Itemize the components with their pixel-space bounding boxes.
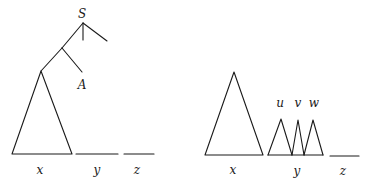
x-subtree-triangle — [205, 72, 263, 155]
label-x: x — [230, 163, 237, 177]
label-z: z — [133, 163, 141, 177]
u-subtree-triangle — [268, 119, 292, 155]
label-y: y — [293, 164, 301, 178]
branch-to-x-subtree — [41, 48, 62, 71]
label-y: y — [93, 163, 101, 177]
label-v: v — [295, 96, 302, 110]
x-subtree-triangle — [12, 71, 72, 154]
label-u: u — [276, 96, 284, 110]
v-subtree-triangle — [292, 120, 304, 155]
label-w: w — [309, 96, 320, 110]
label-x: x — [37, 163, 44, 177]
parse-tree-diagram: S A x y z u v w x y z — [0, 0, 367, 191]
node-label-a: A — [77, 78, 87, 92]
root-left-branch — [62, 23, 83, 48]
branch-to-a — [62, 48, 82, 72]
left-tree: S A x y z — [12, 7, 154, 177]
label-z: z — [339, 164, 347, 178]
root-right-branch — [83, 23, 107, 41]
right-tree: u v w x y z — [205, 72, 359, 178]
w-subtree-triangle — [304, 120, 323, 155]
root-label-s: S — [78, 7, 86, 21]
